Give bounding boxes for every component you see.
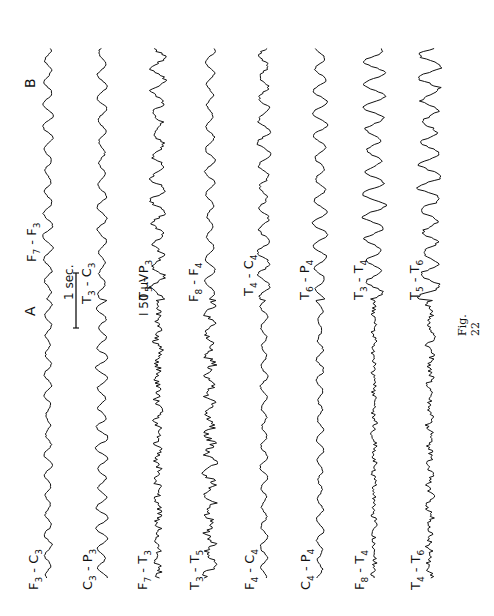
channel-label-part: 5 <box>415 286 425 292</box>
channel-label-part: 3 <box>144 260 154 266</box>
channel-label-b-6: T3 - T4 <box>351 260 369 300</box>
channel-label-part: - <box>242 564 257 577</box>
channel-label-part: T <box>79 296 94 304</box>
channel-label-part: P <box>136 266 151 274</box>
channel-label-part: T <box>351 292 366 300</box>
panel-label-b: B <box>22 78 38 88</box>
channel-label-part: P <box>298 554 313 562</box>
channel-label-a-0: F3 - C3 <box>26 549 44 590</box>
channel-label-b-7: T5 - T6 <box>407 260 425 300</box>
channel-label-part: 8 <box>360 577 370 583</box>
eeg-trace-5 <box>312 49 328 579</box>
channel-label-a-7: T4 - T6 <box>408 550 426 590</box>
channel-label-a-3: T3 - T5 <box>187 550 205 590</box>
channel-label-b-4: T4 - C4 <box>241 255 259 296</box>
channel-label-part: 4 <box>305 260 315 266</box>
channel-label-a-2: F7 - T3 <box>135 550 153 590</box>
channel-label-part: C <box>26 555 41 564</box>
channel-label-part: - <box>298 562 313 575</box>
channel-label-part: T <box>351 265 366 273</box>
channel-label-part: T <box>408 555 423 563</box>
channel-label-part: 3 <box>32 223 42 229</box>
channel-label-part: F <box>135 583 150 590</box>
figure-caption: Fig. 22 <box>456 298 482 336</box>
channel-label-part: T <box>187 582 202 590</box>
channel-label-part: 4 <box>416 576 426 582</box>
channel-label-part: 4 <box>306 549 316 555</box>
channel-label-part: F <box>24 228 39 235</box>
channel-label-part: T <box>352 556 367 564</box>
channel-label-part: T <box>408 582 423 590</box>
channel-label-part: T <box>241 288 256 296</box>
channel-label-part: 6 <box>416 550 426 556</box>
channel-label-a-1: C3 - P3 <box>80 549 98 590</box>
eeg-trace-7 <box>417 49 442 579</box>
channel-label-part: F <box>26 583 41 590</box>
panel-label-a: A <box>22 306 38 316</box>
channel-label-part: 8 <box>194 289 204 295</box>
channel-label-part: 5 <box>195 550 205 556</box>
channel-label-b-3: F8 - F4 <box>186 263 204 302</box>
channel-label-part: - <box>241 269 256 282</box>
channel-label-part: 3 <box>34 577 44 583</box>
channel-label-part: 4 <box>360 550 370 556</box>
channel-label-a-4: F4 - C4 <box>242 549 260 590</box>
channel-label-part: F <box>242 583 257 590</box>
channel-label-part: T <box>135 556 150 564</box>
channel-label-part: - <box>26 564 41 577</box>
channel-label-part: - <box>186 276 201 289</box>
eeg-trace-1 <box>95 49 108 579</box>
eeg-traces <box>0 0 494 616</box>
eeg-trace-6 <box>362 49 386 579</box>
channel-label-part: 7 <box>143 577 153 583</box>
channel-label-part: T <box>187 555 202 563</box>
channel-label-part: 3 <box>359 286 369 292</box>
channel-label-part: - <box>351 273 366 286</box>
channel-label-part: 4 <box>250 577 260 583</box>
channel-label-part: - <box>24 236 39 249</box>
channel-label-a-5: C4 - P4 <box>298 549 316 590</box>
channel-label-part: - <box>136 273 151 286</box>
channel-label-part: 4 <box>249 282 259 288</box>
channel-label-a-6: F8 - T4 <box>352 550 370 590</box>
channel-label-part: 6 <box>415 260 425 266</box>
channel-label-part: - <box>79 277 94 290</box>
channel-label-b-2: T5 - P3 <box>136 260 154 300</box>
channel-label-part: 3 <box>88 549 98 555</box>
eeg-trace-4 <box>257 49 271 579</box>
channel-label-part: T <box>297 292 312 300</box>
channel-label-part: 3 <box>143 550 153 556</box>
channel-label-part: C <box>241 260 256 269</box>
channel-label-part: 3 <box>87 263 97 269</box>
channel-label-part: 3 <box>88 575 98 581</box>
channel-label-part: C <box>242 555 257 564</box>
channel-label-part: 4 <box>306 575 316 581</box>
channel-label-part: 4 <box>250 549 260 555</box>
channel-label-part: - <box>407 273 422 286</box>
channel-label-part: 3 <box>195 576 205 582</box>
channel-label-part: 7 <box>32 249 42 255</box>
channel-label-part: P <box>80 554 95 562</box>
channel-label-part: 3 <box>34 549 44 555</box>
channel-label-part: 5 <box>144 286 154 292</box>
channel-label-b-1: T3 - C3 <box>79 263 97 304</box>
channel-label-b-0: F7 - F3 <box>24 223 42 262</box>
channel-label-part: P <box>297 266 312 274</box>
channel-label-part: C <box>80 581 95 590</box>
channel-label-part: F <box>186 268 201 275</box>
channel-label-part: - <box>352 564 367 577</box>
channel-label-part: F <box>352 583 367 590</box>
channel-label-part: 4 <box>359 260 369 266</box>
channel-label-part: F <box>186 295 201 302</box>
channel-label-part: 4 <box>194 263 204 269</box>
channel-label-b-5: T6 - P4 <box>297 260 315 300</box>
time-scale-label: 1 sec. <box>62 265 76 301</box>
eeg-trace-0 <box>43 49 54 579</box>
channel-label-part: - <box>80 562 95 575</box>
channel-label-part: 6 <box>305 286 315 292</box>
channel-label-part: F <box>24 255 39 262</box>
channel-label-part: C <box>79 268 94 277</box>
channel-label-part: T <box>136 292 151 300</box>
channel-label-part: T <box>407 265 422 273</box>
channel-label-part: - <box>297 273 312 286</box>
